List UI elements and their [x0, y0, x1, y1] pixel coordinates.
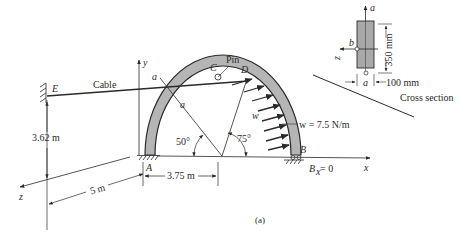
- svg-text:z: z: [331, 56, 342, 61]
- dim-z-distance: 5 m: [49, 174, 143, 204]
- dim-x-distance: 3.75 m: [143, 162, 218, 186]
- svg-text:y: y: [142, 57, 148, 68]
- svg-text:B: B: [309, 163, 315, 174]
- support-A-hatch: [137, 156, 160, 161]
- angle-50: 50°: [176, 135, 203, 156]
- svg-text:x: x: [363, 162, 369, 173]
- svg-text:100 mm: 100 mm: [386, 77, 419, 88]
- cross-section-inset: a b z 350 mm a 100 mm Cross section: [331, 2, 454, 103]
- bx-label: B x = 0: [309, 163, 333, 177]
- svg-text:3.62 m: 3.62 m: [32, 132, 60, 143]
- dim-height-E: 3.62 m: [32, 100, 60, 230]
- svg-text:= 0: = 0: [320, 163, 333, 174]
- svg-text:a: a: [370, 2, 375, 13]
- point-B-label: B: [300, 144, 306, 155]
- svg-text:5 m: 5 m: [89, 181, 107, 196]
- load-value-label: w = 7.5 N/m: [299, 119, 350, 130]
- cable: Cable: [47, 79, 248, 96]
- svg-text:Cross section: Cross section: [400, 92, 454, 103]
- svg-text:3.75 m: 3.75 m: [167, 170, 195, 181]
- svg-text:350 mm: 350 mm: [383, 33, 394, 66]
- svg-text:C: C: [210, 62, 217, 73]
- svg-text:50°: 50°: [176, 136, 190, 147]
- figure-caption: (a): [255, 215, 265, 225]
- arch-cable-diagram: y x z E Cable Pin C D w: [0, 0, 471, 235]
- load-w-label: w: [252, 110, 259, 121]
- point-D-label: D: [240, 64, 249, 75]
- point-A-label: A: [145, 162, 153, 173]
- svg-text:75°: 75°: [237, 133, 251, 144]
- svg-text:a: a: [363, 77, 368, 88]
- wall-E-hatch: [40, 83, 46, 103]
- angle-75: 75°: [228, 133, 251, 156]
- svg-text:b: b: [349, 37, 354, 48]
- svg-text:a: a: [180, 99, 185, 110]
- axis-z: z: [18, 157, 130, 202]
- svg-text:Cable: Cable: [93, 79, 117, 90]
- svg-text:a: a: [152, 71, 157, 82]
- radial-line-D: [222, 82, 246, 156]
- support-B-hatch: [284, 156, 304, 165]
- svg-text:Pin: Pin: [226, 54, 239, 65]
- svg-text:z: z: [18, 191, 23, 202]
- point-E-label: E: [51, 83, 58, 94]
